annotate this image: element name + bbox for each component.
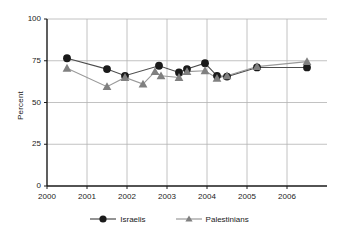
circle-marker-icon [90,214,116,224]
data-point-palestinians [63,64,72,72]
data-point-israelis [103,65,111,73]
legend-item-israelis[interactable]: Israelis [90,214,145,224]
data-point-israelis [155,62,163,70]
data-point-palestinians [103,82,112,90]
triangle-marker-icon [176,214,202,224]
data-point-israelis [63,54,71,62]
legend-label-palestinians: Palestinians [206,215,249,224]
chart-container: Percent 0255075100 200020012002200320042… [0,0,339,235]
data-point-israelis [201,59,209,67]
data-point-palestinians [201,66,210,74]
plot-area [0,0,339,235]
legend-item-palestinians[interactable]: Palestinians [176,214,249,224]
chart-legend: Israelis Palestinians [0,214,339,224]
legend-label-israelis: Israelis [120,215,145,224]
